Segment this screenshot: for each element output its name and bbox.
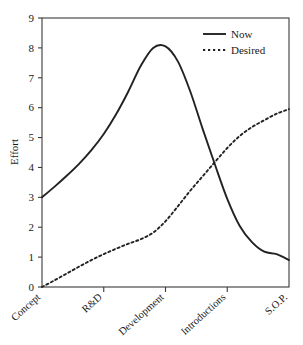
x-axis-tick-labels: ConceptR&DDevelopmentIntroductionsS.O.P. bbox=[9, 291, 289, 337]
y-tick-label: 7 bbox=[29, 72, 35, 84]
plot-frame bbox=[42, 18, 289, 287]
effort-lifecycle-chart: 0123456789 ConceptR&DDevelopmentIntroduc… bbox=[0, 0, 303, 345]
y-tick-label: 2 bbox=[29, 221, 35, 233]
legend-label-desired: Desired bbox=[231, 44, 266, 56]
y-tick-label: 9 bbox=[29, 12, 35, 24]
y-tick-label: 4 bbox=[29, 161, 35, 173]
y-tick-label: 0 bbox=[29, 281, 35, 293]
chart-canvas: 0123456789 ConceptR&DDevelopmentIntroduc… bbox=[0, 0, 303, 345]
x-tick-label: Concept bbox=[9, 291, 42, 323]
x-tick-label: Development bbox=[116, 291, 165, 337]
y-tick-label: 6 bbox=[29, 101, 35, 113]
y-axis-title: Effort bbox=[8, 139, 20, 165]
x-tick-label: Introductions bbox=[179, 291, 228, 337]
y-axis-tick-labels: 0123456789 bbox=[29, 12, 35, 293]
y-tick-label: 5 bbox=[29, 131, 35, 143]
plot-area-border bbox=[42, 18, 289, 287]
legend-label-now: Now bbox=[231, 28, 252, 40]
x-tick-label: R&D bbox=[80, 291, 105, 315]
x-axis-ticks bbox=[104, 287, 228, 292]
y-axis-ticks bbox=[38, 18, 42, 287]
y-tick-label: 1 bbox=[29, 251, 35, 263]
y-tick-label: 3 bbox=[29, 191, 35, 203]
x-tick-label: S.O.P. bbox=[263, 291, 290, 317]
y-tick-label: 8 bbox=[29, 42, 35, 54]
